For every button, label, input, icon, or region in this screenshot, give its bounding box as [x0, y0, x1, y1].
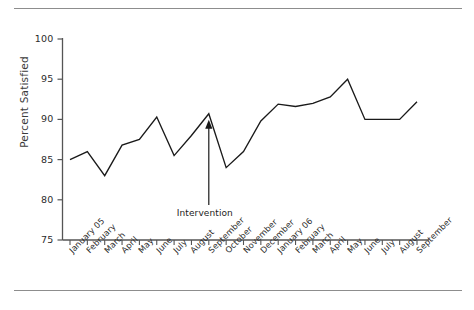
y-tick-95: 95 — [24, 73, 54, 84]
chart-figure: Percent Satisfied 1009590858075 January … — [0, 0, 474, 310]
line-chart-plot — [0, 0, 474, 310]
y-tick-75: 75 — [24, 234, 54, 245]
y-tick-85: 85 — [24, 154, 54, 165]
y-tick-100: 100 — [24, 33, 54, 44]
intervention-annotation-label: Intervention — [177, 208, 233, 218]
y-tick-90: 90 — [24, 113, 54, 124]
y-tick-80: 80 — [24, 194, 54, 205]
